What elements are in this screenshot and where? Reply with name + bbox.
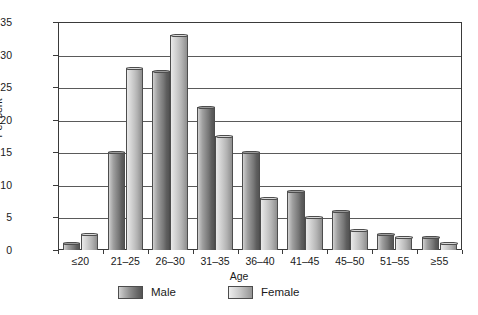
bar-cap [126, 67, 144, 70]
bar-cap [422, 236, 440, 239]
bar-cap [63, 242, 81, 245]
bar-cap [171, 34, 189, 37]
bar-cap [242, 151, 260, 154]
legend-item-male[interactable]: Male [118, 283, 176, 301]
bar-male-5 [287, 191, 305, 250]
bar-male-0 [63, 243, 81, 250]
legend-swatch-male-icon [118, 286, 143, 299]
bar-female-0 [81, 234, 99, 250]
gridline [59, 121, 461, 122]
gridline [59, 56, 461, 57]
x-axis-tick-mark [193, 250, 194, 254]
bar-male-2 [152, 71, 170, 250]
x-axis-tick-label: 41–45 [282, 256, 327, 267]
x-axis-tick-mark [103, 250, 104, 254]
bar-cap [287, 190, 305, 193]
bar-cap [260, 197, 278, 200]
bar-male-7 [377, 234, 395, 250]
legend-item-female[interactable]: Female [228, 283, 299, 301]
x-axis-tick-mark [282, 250, 283, 254]
y-axis-tick-label: 10 [0, 180, 12, 191]
x-axis-tick-mark [327, 250, 328, 254]
legend-label-female: Female [261, 286, 299, 298]
bar-cap [377, 233, 395, 236]
x-axis-tick-label: ≥55 [417, 256, 462, 267]
bar-cap [198, 106, 216, 109]
x-axis-tick-label: 51–55 [372, 256, 417, 267]
y-axis-tick-label: 0 [0, 245, 12, 256]
bar-male-4 [242, 152, 260, 250]
bar-cap [332, 210, 350, 213]
y-axis-tick-mark [53, 55, 58, 56]
x-axis-tick-label: 45–50 [327, 256, 372, 267]
bar-cap [216, 135, 234, 138]
gridline [59, 88, 461, 89]
bar-female-4 [260, 198, 278, 250]
x-axis-tick-mark [58, 250, 59, 254]
y-axis-tick-mark [53, 152, 58, 153]
x-axis-tick-label: 31–35 [193, 256, 238, 267]
x-axis-tick-mark [148, 250, 149, 254]
bar-cap [108, 151, 126, 154]
bar-male-6 [332, 211, 350, 250]
y-axis-tick-label: 30 [0, 50, 12, 61]
x-axis-tick-label: 21–25 [103, 256, 148, 267]
bar-female-7 [395, 237, 413, 250]
x-axis-tick-mark [372, 250, 373, 254]
y-axis-tick-mark [53, 120, 58, 121]
y-axis-tick-mark [53, 22, 58, 23]
bar-cap [395, 236, 413, 239]
bar-female-5 [305, 217, 323, 250]
y-axis-tick-label: 20 [0, 115, 12, 126]
bar-male-3 [197, 107, 215, 250]
y-axis-tick-mark [53, 217, 58, 218]
bar-cap [440, 242, 458, 245]
y-axis-tick-label: 5 [0, 212, 12, 223]
bar-female-6 [350, 230, 368, 250]
x-axis-tick-mark [238, 250, 239, 254]
bar-chart-figure: Per cent Age Male Female 05101520253035≤… [0, 0, 478, 315]
bar-cap [305, 216, 323, 219]
bar-male-1 [108, 152, 126, 250]
y-axis-tick-mark [53, 185, 58, 186]
y-axis-tick-label: 35 [0, 17, 12, 28]
bar-female-8 [440, 243, 458, 250]
x-axis-tick-mark [417, 250, 418, 254]
bar-cap [350, 229, 368, 232]
x-axis-tick-label: 26–30 [148, 256, 193, 267]
bar-cap [153, 70, 171, 73]
bar-female-3 [215, 136, 233, 250]
bar-male-8 [422, 237, 440, 250]
legend-swatch-female-icon [228, 286, 253, 299]
legend-label-male: Male [151, 286, 176, 298]
bar-female-2 [170, 35, 188, 250]
chart-legend: Male Female [0, 283, 478, 305]
x-axis-tick-label: ≤20 [58, 256, 103, 267]
y-axis-tick-label: 25 [0, 82, 12, 93]
x-axis-title: Age [0, 270, 478, 282]
bar-female-1 [126, 68, 144, 250]
y-axis-tick-mark [53, 87, 58, 88]
y-axis-tick-label: 15 [0, 147, 12, 158]
x-axis-tick-label: 36–40 [238, 256, 283, 267]
bar-cap [81, 233, 99, 236]
x-axis-tick-mark [462, 250, 463, 254]
